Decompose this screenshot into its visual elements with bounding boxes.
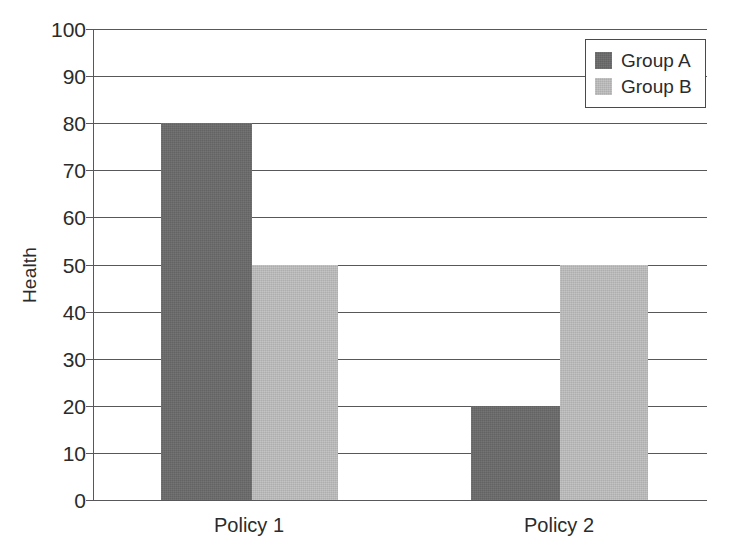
y-tick-mark: [86, 453, 93, 454]
y-tick-mark: [86, 406, 93, 407]
y-tick-label: 60: [38, 207, 86, 228]
chart-legend: Group AGroup B: [585, 39, 706, 108]
y-tick-label: 20: [38, 395, 86, 416]
bar-group-b-policy-1: [252, 265, 338, 501]
y-tick-mark: [86, 359, 93, 360]
legend-item[interactable]: Group B: [595, 73, 696, 99]
legend-item[interactable]: Group A: [595, 47, 696, 73]
gridline: [93, 29, 707, 30]
y-tick-label: 30: [38, 348, 86, 369]
y-tick-label: 90: [38, 66, 86, 87]
x-tick-label: Policy 2: [524, 515, 594, 535]
legend-label: Group A: [621, 51, 691, 70]
y-tick-label: 70: [38, 160, 86, 181]
y-tick-mark: [86, 312, 93, 313]
y-tick-label: 10: [38, 442, 86, 463]
y-axis-tick-labels: 1009080706050403020100: [38, 0, 86, 552]
gridline: [93, 500, 707, 501]
y-tick-label: 100: [38, 19, 86, 40]
y-tick-label: 50: [38, 254, 86, 275]
y-tick-label: 80: [38, 113, 86, 134]
legend-label: Group B: [621, 77, 692, 96]
y-tick-mark: [86, 29, 93, 30]
y-tick-label: 0: [38, 490, 86, 511]
x-tick-label: Policy 1: [214, 515, 284, 535]
bar-group-a-policy-2: [471, 406, 560, 500]
y-tick-mark: [86, 123, 93, 124]
legend-swatch-icon: [595, 78, 612, 95]
bar-chart: Health 1009080706050403020100 Policy 1Po…: [0, 0, 737, 552]
y-tick-mark: [86, 500, 93, 501]
y-tick-mark: [86, 265, 93, 266]
legend-swatch-icon: [595, 52, 612, 69]
y-tick-mark: [86, 217, 93, 218]
y-tick-label: 40: [38, 301, 86, 322]
y-tick-mark: [86, 170, 93, 171]
y-tick-mark: [86, 76, 93, 77]
bar-group-b-policy-2: [560, 265, 648, 501]
bar-group-a-policy-1: [161, 123, 252, 500]
